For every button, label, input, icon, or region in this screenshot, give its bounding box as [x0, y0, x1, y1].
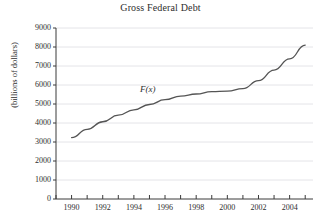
x-axis-tick-label: 1990 [55, 203, 89, 212]
x-axis-tick-label: 1996 [148, 203, 182, 212]
y-axis-tick-label: 4000 [17, 118, 51, 127]
x-axis-tick-label: 1992 [86, 203, 120, 212]
chart-figure: Gross Federal Debt (billions of dollars)… [0, 0, 321, 217]
y-axis-tick-label: 9000 [17, 23, 51, 32]
x-axis-tick-label: 1998 [179, 203, 213, 212]
x-axis-tick-label: 2004 [273, 203, 307, 212]
plot-area [0, 0, 321, 217]
y-axis-tick-label: 0 [17, 194, 51, 203]
x-axis-tick-label: 1994 [117, 203, 151, 212]
y-axis-tick-label: 2000 [17, 156, 51, 165]
gridlines [56, 28, 313, 180]
series-path [72, 45, 306, 137]
series-annotation-label: F(x) [140, 84, 156, 94]
y-axis-tick-label: 8000 [17, 42, 51, 51]
y-axis-tick-label: 3000 [17, 137, 51, 146]
y-axis-tick-label: 5000 [17, 99, 51, 108]
y-axis-tick-label: 6000 [17, 80, 51, 89]
x-axis-tick-label: 2002 [241, 203, 275, 212]
data-series-line [72, 45, 306, 137]
x-axis-ticks [56, 195, 305, 199]
x-axis-tick-label: 2000 [210, 203, 244, 212]
y-axis-tick-label: 7000 [17, 61, 51, 70]
y-axis-tick-label: 1000 [17, 175, 51, 184]
